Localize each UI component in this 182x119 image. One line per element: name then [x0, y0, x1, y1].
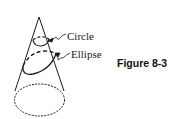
figure-canvas: Circle Ellipse Figure 8-3: [0, 0, 182, 119]
ellipse-pointer: [55, 53, 70, 60]
circle-label: Circle: [67, 31, 94, 42]
ellipse-section: [23, 51, 56, 74]
figure-caption: Figure 8-3: [117, 58, 167, 69]
ellipse-label: Ellipse: [71, 49, 102, 60]
cone-base: [15, 84, 65, 116]
circle-pointer: [48, 34, 66, 42]
